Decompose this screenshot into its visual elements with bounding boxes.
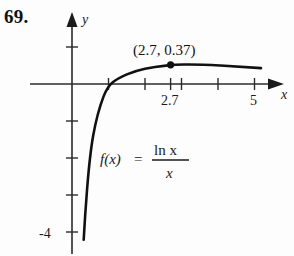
annotation-point-label: (2.7, 0.37) (133, 42, 196, 59)
formula-denominator: x (165, 165, 173, 181)
y-axis-arrowhead (67, 12, 78, 27)
formula-lhs: f(x) (100, 151, 121, 168)
annotation-point-marker (167, 61, 174, 68)
graph-plot: y x 2.7 5 -4 (0, 0, 294, 256)
y-tick-label-neg4: -4 (39, 226, 51, 241)
x-tick-label-5: 5 (250, 93, 257, 108)
y-axis-label: y (80, 12, 89, 27)
function-formula: f(x) = ln x x (100, 142, 189, 181)
x-tick-label-2p7: 2.7 (161, 93, 179, 108)
x-axis-label: x (280, 87, 288, 102)
figure-container: 69. y x 2.7 (0, 0, 294, 256)
formula-numerator: ln x (154, 142, 177, 158)
formula-equals: = (134, 151, 142, 167)
